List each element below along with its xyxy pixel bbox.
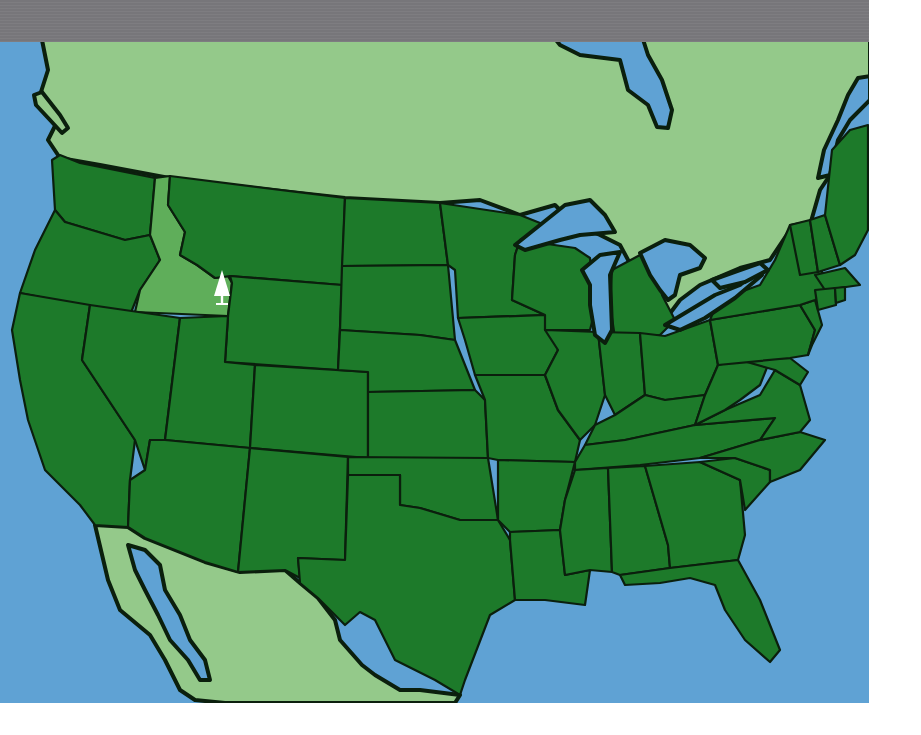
state-iowa[interactable] [458,315,558,375]
state-kansas[interactable] [368,390,488,458]
state-north-dakota[interactable] [342,198,448,266]
us-map [0,0,869,703]
map-frame: United States map with highlighted state [0,0,869,703]
state-colorado[interactable] [250,365,368,458]
state-rhode-island[interactable] [835,287,845,303]
top-banner [0,0,869,42]
state-south-dakota[interactable] [340,265,455,340]
state-connecticut[interactable] [815,288,836,310]
state-wyoming[interactable] [225,276,342,370]
